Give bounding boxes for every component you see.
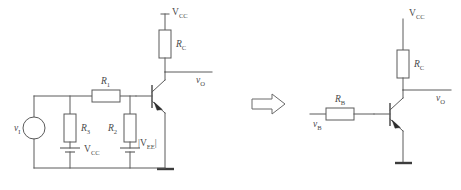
left-r3-branch: [60, 96, 80, 168]
left-rc-label: RC: [175, 39, 187, 51]
left-r3-label: R3: [80, 123, 91, 135]
right-vo-label: vO: [436, 93, 445, 105]
left-vcc-label: VCC: [172, 7, 188, 19]
right-circuit: VCC RC vO: [310, 8, 451, 163]
left-r1-resistor: [92, 90, 120, 102]
left-r3-resistor: [64, 114, 76, 142]
right-rc-resistor: [397, 50, 409, 78]
circuit-figure: VCC RC vO: [0, 0, 461, 190]
left-r2-branch: [120, 96, 140, 168]
right-vb-label: vB: [313, 119, 322, 131]
left-battery-vcc-label: VCC: [84, 144, 100, 156]
right-rb-label: RB: [334, 94, 346, 106]
right-rc-label: RC: [413, 59, 425, 71]
left-vcc-terminal: [161, 14, 169, 30]
right-npn-transistor: [374, 90, 403, 162]
left-vi-label: vI: [14, 123, 20, 135]
right-rb-resistor: [326, 108, 354, 120]
implies-block-arrow: [252, 94, 285, 114]
left-r2-label: R2: [107, 123, 117, 135]
left-input-source: [23, 96, 45, 168]
left-circuit: VCC RC vO: [14, 7, 212, 169]
left-rc-resistor: [159, 30, 171, 58]
left-npn-transistor: [136, 72, 165, 168]
left-r1-label: R1: [100, 76, 110, 88]
left-r2-resistor: [124, 114, 136, 142]
left-battery-vee-label: |VEE|: [138, 138, 157, 150]
left-vo-label: vO: [196, 75, 205, 87]
right-vcc-label: VCC: [409, 8, 425, 20]
